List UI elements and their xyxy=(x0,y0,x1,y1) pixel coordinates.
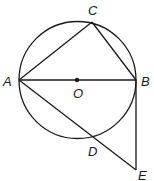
label-e: E xyxy=(138,168,147,181)
segment-ac xyxy=(19,22,92,80)
segment-cb xyxy=(92,22,136,80)
label-b: B xyxy=(141,74,150,89)
center-point-o xyxy=(75,78,79,82)
geometry-diagram: A B C O D E xyxy=(0,0,154,181)
label-o: O xyxy=(73,86,83,101)
label-a: A xyxy=(2,74,12,89)
label-c: C xyxy=(88,3,98,18)
label-d: D xyxy=(88,144,97,159)
